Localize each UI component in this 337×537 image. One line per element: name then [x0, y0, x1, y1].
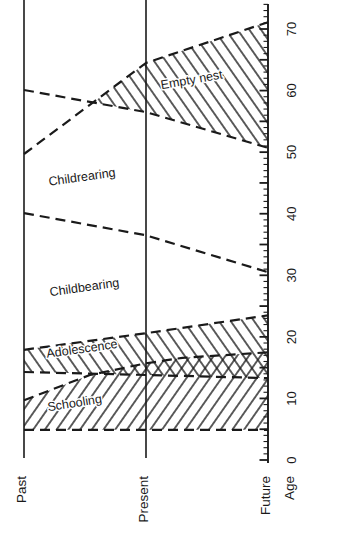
region-label-childrearing: Childrearing — [48, 166, 117, 189]
age-axis-label: Age — [282, 476, 297, 500]
age-tick-label-40: 40 — [284, 206, 299, 220]
time-label-past: Past — [14, 476, 29, 503]
time-label-future: Future — [258, 476, 273, 515]
age-tick-label-50: 50 — [284, 145, 299, 159]
age-tick-label-30: 30 — [284, 268, 299, 282]
age-tick-label-10: 10 — [284, 391, 299, 405]
family-lifecycle-chart: 010203040506070PastPresentFutureAgeEmpty… — [0, 0, 337, 537]
age-tick-label-0: 0 — [284, 456, 299, 463]
time-label-present: Present — [136, 476, 151, 523]
region-label-childbearing: Childbearing — [49, 276, 120, 300]
age-tick-label-20: 20 — [284, 330, 299, 344]
age-tick-label-60: 60 — [284, 83, 299, 97]
chart-canvas: 010203040506070PastPresentFutureAgeEmpty… — [0, 0, 337, 537]
age-tick-label-70: 70 — [284, 22, 299, 36]
